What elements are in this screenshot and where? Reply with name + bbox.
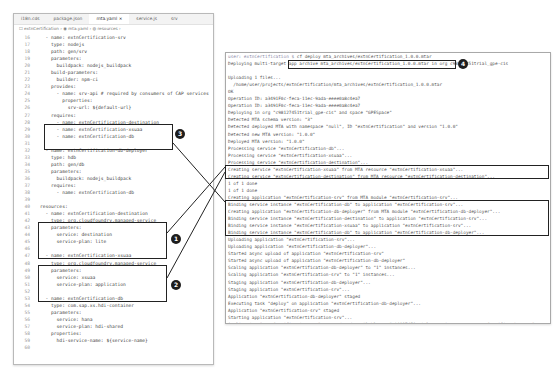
terminal-output-line: Operation ID: a3491F0c-feca-11ec-9ada-ee… xyxy=(226,102,550,109)
highlight-deploy-command xyxy=(288,60,456,69)
code-line[interactable]: 36 buildpack: nodejs_buildpack xyxy=(14,175,213,182)
terminal-output-line: Detected new MTA version: "1.0.0" xyxy=(226,131,550,138)
line-number: 29 xyxy=(14,126,40,133)
line-number: 48 xyxy=(14,260,40,267)
code-line[interactable]: 38 - name: extnCertification-db xyxy=(14,189,213,196)
tab-package-json[interactable]: package.json xyxy=(46,14,89,24)
tab-i18n-cds[interactable]: i18n.cds xyxy=(14,14,46,24)
line-number: 35 xyxy=(14,168,40,175)
highlight-create-services xyxy=(225,165,549,179)
line-number: 23 xyxy=(14,83,40,90)
tab-mta-yaml[interactable]: mta.yaml × xyxy=(89,14,129,24)
code-line[interactable]: 54 type: com.sap.xs.hdi-container xyxy=(14,302,213,309)
terminal-output-line: Detected MTA schema version: "3" xyxy=(226,116,550,123)
terminal-output-line: Detected deployed MTA with namespace "nu… xyxy=(226,123,550,130)
terminal-panel[interactable]: user: extnCertification $ cf deploy mta_… xyxy=(225,52,551,324)
callout-badge-2: 2 xyxy=(171,280,181,290)
terminal-output-line: Scaling application "extnCertification-d… xyxy=(226,264,550,271)
code-line[interactable]: 25 properties: xyxy=(14,97,213,104)
line-number: 36 xyxy=(14,175,40,182)
line-number: 41 xyxy=(14,210,40,217)
code-text: - name: extnCertification-destination xyxy=(40,210,148,217)
line-number: 19 xyxy=(14,55,40,62)
code-text: parameters: xyxy=(40,55,82,62)
line-number: 44 xyxy=(14,231,40,238)
line-number: 45 xyxy=(14,238,40,245)
code-line[interactable]: 18 path: gen/srv xyxy=(14,48,213,55)
code-text: builder: npm-ci xyxy=(40,76,98,83)
terminal-output-line: Started async upload of application "ext… xyxy=(226,250,550,257)
line-number: 53 xyxy=(14,295,40,302)
code-text: properties: xyxy=(40,97,93,104)
terminal-output-line: Scaling application "extnCertification-s… xyxy=(226,271,550,278)
tab-service-js[interactable]: service.js xyxy=(129,14,164,24)
breadcrumb[interactable]: ☐ extnCertification › ◉ mta.yaml › ◍ res… xyxy=(14,25,213,33)
line-number: 25 xyxy=(14,97,40,104)
terminal-output-line: Application "extnCertification-db-deploy… xyxy=(226,293,550,300)
line-number: 51 xyxy=(14,281,40,288)
code-line[interactable]: 39 xyxy=(14,196,213,203)
code-line[interactable]: 41 - name: extnCertification-destination xyxy=(14,210,213,217)
line-number: 20 xyxy=(14,62,40,69)
code-line[interactable]: 19 parameters: xyxy=(14,55,213,62)
code-line[interactable]: 33 type: hdb xyxy=(14,154,213,161)
line-number: 58 xyxy=(14,330,40,337)
terminal-command-line: user: extnCertification $ cf deploy mta_… xyxy=(226,53,550,60)
code-text: - name: extnCertification-db xyxy=(40,189,134,196)
terminal-output-line: Uploading 1 files... xyxy=(226,74,550,81)
code-line[interactable]: 58 properties: xyxy=(14,330,213,337)
code-text: path: gen/db xyxy=(40,161,84,168)
code-line[interactable]: 60 xyxy=(14,344,213,351)
terminal-output-line: 1 of 1 done xyxy=(226,180,550,187)
code-text: srv-url: ${default-url} xyxy=(40,104,131,111)
code-line[interactable]: 56 service: hana xyxy=(14,316,213,323)
line-number: 60 xyxy=(14,344,40,351)
code-line[interactable]: 21 build-parameters: xyxy=(14,69,213,76)
code-text: buildpack: nodejs_buildpack xyxy=(40,62,131,69)
terminal-output-line: Application "extnCertification-srv" stag… xyxy=(226,307,550,314)
line-number: 26 xyxy=(14,104,40,111)
line-number: 54 xyxy=(14,302,40,309)
code-line[interactable]: 23 provides: xyxy=(14,83,213,90)
line-number: 46 xyxy=(14,245,40,252)
code-line[interactable]: 40resources: xyxy=(14,203,213,210)
line-number: 42 xyxy=(14,217,40,224)
code-line[interactable]: 37 requires: xyxy=(14,182,213,189)
line-number: 21 xyxy=(14,69,40,76)
callout-badge-4: 4 xyxy=(458,59,468,69)
code-line[interactable]: 22 builder: npm-ci xyxy=(14,76,213,83)
code-line[interactable]: 16 - name: extnCertification-srv xyxy=(14,34,213,41)
code-text: type: com.sap.xs.hdi-container xyxy=(40,302,134,309)
tab-srv[interactable]: srv xyxy=(164,14,185,24)
code-text: provides: xyxy=(40,83,76,90)
code-line[interactable]: 55 parameters: xyxy=(14,309,213,316)
line-number: 43 xyxy=(14,224,40,231)
code-line[interactable]: 24 - name: srv-api # required by consume… xyxy=(14,90,213,97)
code-text: requires: xyxy=(40,182,76,189)
line-number: 38 xyxy=(14,189,40,196)
code-line[interactable]: 35 parameters: xyxy=(14,168,213,175)
line-number: 56 xyxy=(14,316,40,323)
line-number: 27 xyxy=(14,112,40,119)
code-text: properties: xyxy=(40,330,82,337)
code-area[interactable]: 16 - name: extnCertification-srv17 type:… xyxy=(14,33,213,351)
code-line[interactable]: 20 buildpack: nodejs_buildpack xyxy=(14,62,213,69)
code-text: service-plan: hdi-shared xyxy=(40,323,123,330)
terminal-output-line: Uploading application "extnCertification… xyxy=(226,236,550,243)
code-text: build-parameters: xyxy=(40,69,98,76)
code-text: service: hana xyxy=(40,316,93,323)
code-line[interactable]: 57 service-plan: hdi-shared xyxy=(14,323,213,330)
highlight-requires-block xyxy=(44,124,173,150)
line-number: 47 xyxy=(14,252,40,259)
deploy-command: cf deploy mta_archives/extnCertification… xyxy=(297,54,432,59)
code-line[interactable]: 59 hdi-service-name: ${service-name} xyxy=(14,337,213,344)
editor-tab-bar: i18n.cds package.json mta.yaml × service… xyxy=(14,14,213,25)
line-number: 28 xyxy=(14,119,40,126)
code-line[interactable]: 27 requires: xyxy=(14,112,213,119)
code-line[interactable]: 17 type: nodejs xyxy=(14,41,213,48)
code-text: parameters: xyxy=(40,309,82,316)
code-line[interactable]: 34 path: gen/db xyxy=(14,161,213,168)
highlight-bind-services xyxy=(225,200,549,236)
line-number: 33 xyxy=(14,154,40,161)
code-line[interactable]: 26 srv-url: ${default-url} xyxy=(14,104,213,111)
